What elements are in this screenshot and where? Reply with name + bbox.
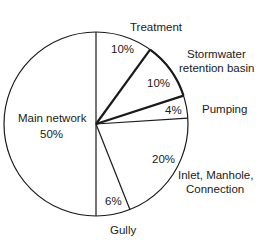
pct-stormwater: 10% [147, 77, 170, 89]
pct-inlet: 20% [152, 153, 175, 165]
pct-pumping: 4% [165, 104, 182, 116]
pct-main-network: 50% [40, 128, 63, 140]
pct-gully: 6% [105, 195, 122, 207]
label-stormwater-line2: retention basin [179, 62, 254, 74]
pie-chart: 10% 10% 4% 20% 6% Main network 50% Treat… [0, 0, 269, 249]
label-inlet-line2: Connection [186, 183, 244, 195]
pct-treatment: 10% [111, 43, 134, 55]
label-gully: Gully [110, 224, 136, 236]
label-inlet-line1: Inlet, Manhole, [178, 169, 253, 181]
label-stormwater-line1: Stormwater [187, 48, 246, 60]
label-pumping: Pumping [202, 103, 247, 115]
label-treatment: Treatment [130, 21, 183, 33]
label-main-network: Main network [18, 112, 87, 124]
